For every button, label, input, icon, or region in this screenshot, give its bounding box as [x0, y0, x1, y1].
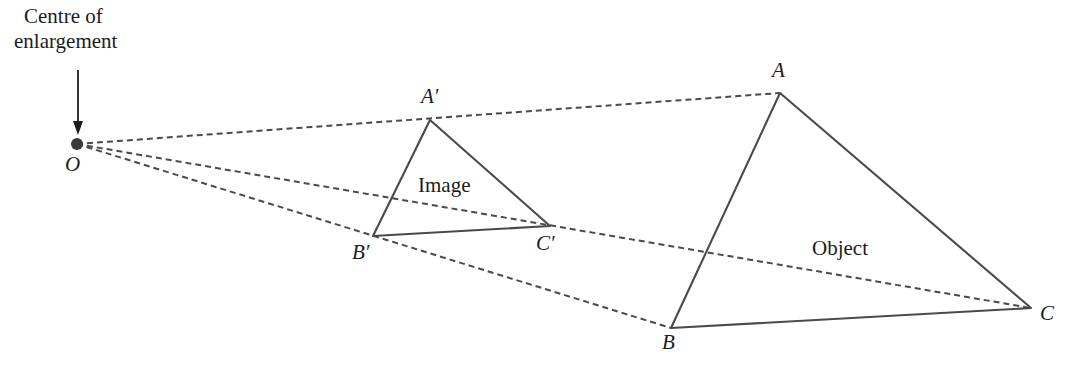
- object-caption: Object: [812, 236, 868, 261]
- vertex-label-a: A: [772, 58, 785, 83]
- ray-O-C-icon: [77, 144, 1031, 308]
- vertex-label-o: O: [65, 152, 80, 177]
- enlargement-diagram: Centre of enlargement O A′ B′ C′ A B C I…: [0, 0, 1073, 371]
- image-caption: Image: [418, 173, 470, 198]
- vertex-label-b-prime: B′: [352, 240, 369, 265]
- object-triangle: [671, 93, 1031, 328]
- centre-annotation-line-2: enlargement: [14, 29, 117, 54]
- centre-annotation-line-1: Centre of: [24, 4, 103, 29]
- enlargement-rays: [77, 93, 1031, 328]
- vertex-label-b: B: [662, 330, 675, 355]
- centre-annotation-arrow-icon: [73, 70, 83, 135]
- vertex-label-c-prime: C′: [536, 231, 555, 256]
- vertex-label-c: C: [1040, 301, 1054, 326]
- object-triangle-outline: [671, 93, 1031, 328]
- vertex-label-a-prime: A′: [421, 84, 438, 109]
- centre-of-enlargement-point: [71, 138, 83, 150]
- diagram-canvas: [0, 0, 1073, 371]
